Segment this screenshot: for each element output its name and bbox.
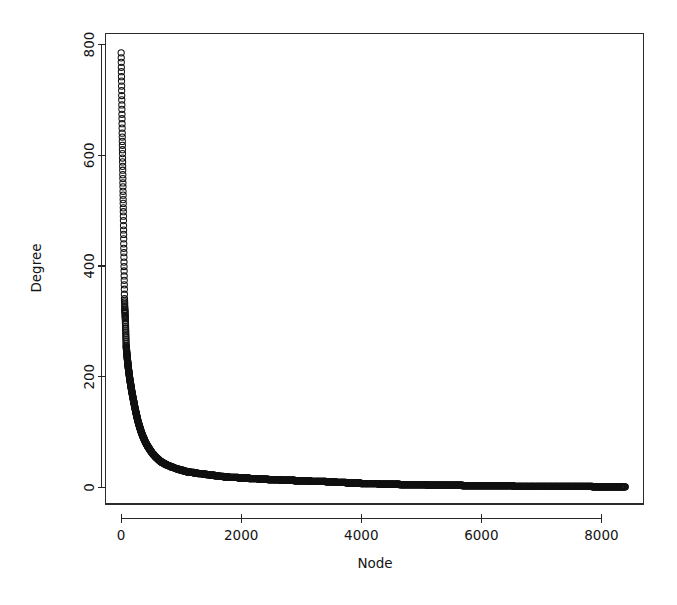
scatter-plot-canvas: 0200400600800 02000400060008000 Node Deg… [0, 0, 677, 605]
x-tick-label: 8000 [584, 527, 618, 543]
x-axis-title: Node [357, 555, 392, 571]
y-tick-label: 600 [82, 142, 98, 168]
x-tick-label: 4000 [344, 527, 378, 543]
x-tick-label: 2000 [224, 527, 258, 543]
x-tick-label: 0 [117, 527, 126, 543]
y-axis-title: Degree [28, 243, 44, 292]
y-tick-label: 0 [82, 483, 98, 492]
degree-distribution-figure: 0200400600800 02000400060008000 Node Deg… [0, 0, 677, 605]
x-tick-label: 6000 [464, 527, 498, 543]
y-tick-label: 200 [82, 364, 98, 390]
y-tick-label: 800 [82, 32, 98, 58]
y-tick-label: 400 [82, 253, 98, 279]
